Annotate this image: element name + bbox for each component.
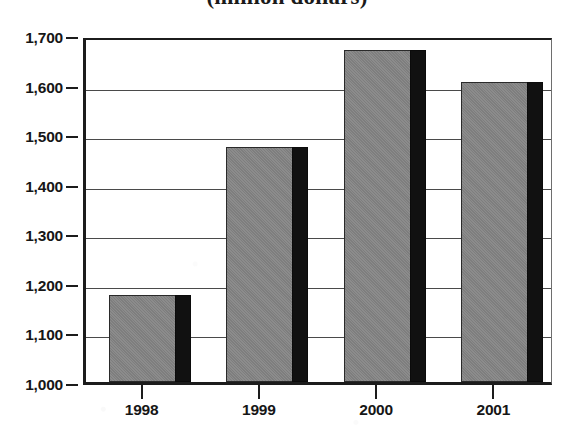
- y-axis-tick-label: 1,400: [25, 178, 63, 196]
- bar-shadow: [175, 295, 191, 382]
- plot-area: [83, 38, 552, 385]
- bar-chart: (million dollars) 1,7001,6001,5001,4001,…: [0, 0, 574, 440]
- bar-shadow: [410, 50, 426, 382]
- y-axis-tick-label: 1,600: [25, 79, 63, 97]
- y-axis-tick-label: 1,500: [25, 128, 63, 146]
- x-axis: 1998199920002001: [83, 385, 552, 440]
- bar-face: [461, 82, 528, 382]
- y-axis: 1,7001,6001,5001,4001,3001,2001,1001,000: [0, 0, 83, 440]
- y-axis-tick-label: 1,000: [25, 376, 63, 394]
- bar: [344, 50, 427, 382]
- y-axis-tick: [66, 87, 78, 89]
- x-axis-tick: [375, 385, 377, 399]
- y-axis-tick: [66, 384, 78, 386]
- y-axis-tick: [66, 334, 78, 336]
- x-axis-tick: [258, 385, 260, 399]
- bar-face: [344, 50, 411, 382]
- chart-title: (million dollars): [0, 0, 574, 10]
- y-axis-tick-label: 1,700: [25, 29, 63, 47]
- bar: [226, 147, 309, 382]
- y-axis-tick: [66, 37, 78, 39]
- y-axis-tick-label: 1,100: [25, 326, 63, 344]
- bar-face: [226, 147, 293, 382]
- y-axis-tick: [66, 186, 78, 188]
- chart-title-clipped: (million dollars): [0, 0, 574, 14]
- x-axis-tick: [492, 385, 494, 399]
- y-axis-tick: [66, 136, 78, 138]
- x-axis-tick: [141, 385, 143, 399]
- x-axis-tick-label: 1999: [242, 401, 276, 419]
- bar: [109, 295, 192, 382]
- bar-series: [86, 40, 551, 382]
- y-axis-tick: [66, 285, 78, 287]
- bar-shadow: [292, 147, 308, 382]
- bar: [461, 82, 544, 382]
- y-axis-tick-label: 1,300: [25, 227, 63, 245]
- x-axis-tick-label: 2000: [359, 401, 393, 419]
- y-axis-tick-label: 1,200: [25, 277, 63, 295]
- bar-shadow: [527, 82, 543, 382]
- x-axis-tick-label: 2001: [477, 401, 511, 419]
- y-axis-tick: [66, 235, 78, 237]
- bar-face: [109, 295, 176, 382]
- x-axis-tick-label: 1998: [125, 401, 159, 419]
